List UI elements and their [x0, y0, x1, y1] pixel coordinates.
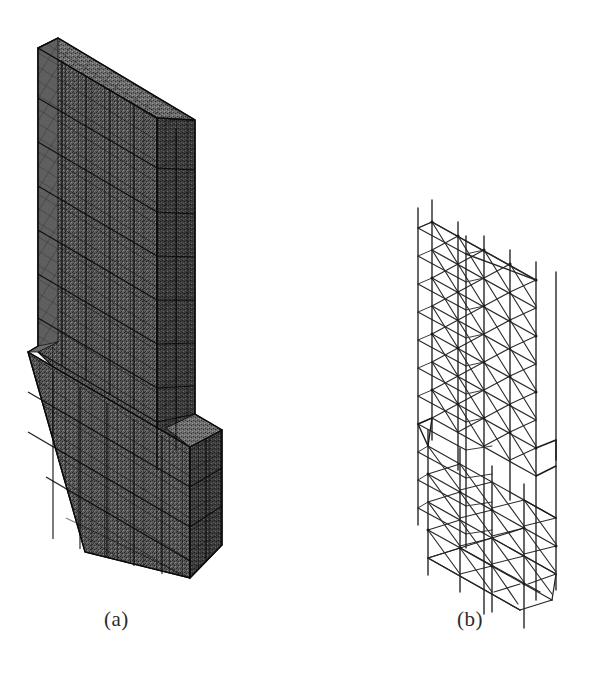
- panel-b-truss-figure: [0, 0, 600, 675]
- truss-model: [418, 200, 558, 628]
- caption-a: (a): [104, 607, 129, 632]
- figure-root: (a) (b): [0, 0, 600, 675]
- truss-top-edge: [418, 222, 536, 280]
- truss-setback-left: [418, 418, 432, 446]
- caption-b: (b): [457, 607, 483, 632]
- panel-b-svg: [0, 0, 600, 675]
